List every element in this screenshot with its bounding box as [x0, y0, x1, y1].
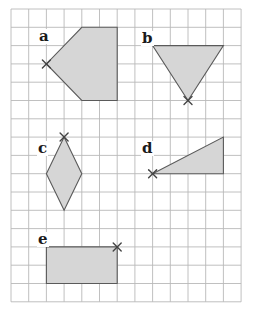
shape-label-b: b	[141, 31, 154, 46]
shape-label-c: c	[37, 141, 48, 156]
shape-e-rectangle	[46, 247, 117, 284]
grid-diagram	[0, 0, 253, 314]
shape-label-d: d	[141, 141, 154, 156]
shape-b-triangle	[153, 46, 224, 101]
shape-c-rhombus	[46, 137, 81, 210]
shape-a-pentagon	[46, 27, 117, 100]
shape-label-a: a	[38, 29, 50, 44]
shape-label-e: e	[37, 232, 49, 247]
